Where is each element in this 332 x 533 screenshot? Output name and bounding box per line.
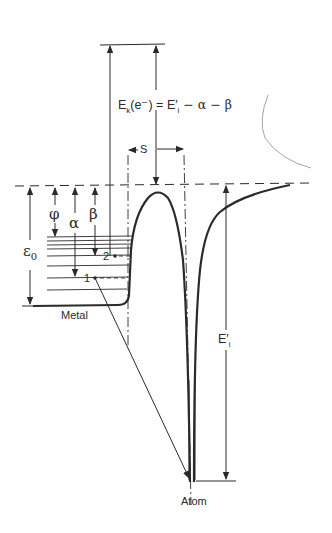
kinetic-energy-equation: Ek(e⁻) = E′i − α − β	[118, 99, 232, 115]
epsilon-symbol: ε	[23, 242, 31, 260]
level-1-label: 1	[84, 273, 90, 284]
epsilon-label: ε0	[23, 244, 37, 262]
alpha-label: α	[69, 216, 79, 231]
ek-top-bar	[100, 44, 165, 45]
spacing-label: S	[140, 144, 147, 155]
work-function-label: φ	[49, 207, 60, 222]
guide-line-atom	[184, 155, 191, 505]
vacuum-level-line	[15, 183, 312, 186]
level-2-dot	[113, 254, 117, 258]
eq-lhs-arg: (e⁻)	[130, 98, 152, 112]
diagram-graphics	[0, 0, 332, 533]
ionization-symbol: E′	[218, 332, 229, 346]
level-2-label: 2	[103, 251, 109, 262]
ionization-energy-label: E′i	[218, 333, 230, 349]
beta-label: β	[89, 207, 98, 222]
metal-label: Metal	[61, 310, 88, 321]
eq-rhs: = E′	[156, 98, 177, 112]
eq-rhs-tail: − α − β	[179, 97, 232, 112]
potential-curve-atom	[194, 185, 290, 482]
stray-mark	[262, 95, 311, 168]
transition-arrow	[95, 278, 189, 478]
epsilon-sub: 0	[31, 251, 37, 262]
atom-label: Atom	[181, 496, 207, 507]
diagram-canvas: Ek(e⁻) = E′i − α − β S φ α β ε0 2 1 Meta…	[0, 0, 332, 533]
ionization-sub: i	[229, 340, 231, 349]
